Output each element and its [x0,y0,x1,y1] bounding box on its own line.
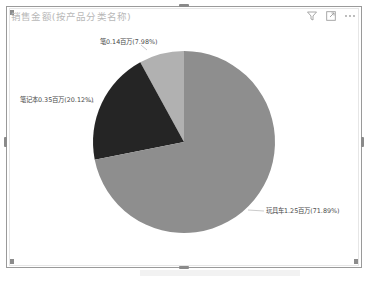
pie-chart: 笔0.14百万(7.98%)笔记本0.35百万(20.12%)玩具车1.25百万… [0,0,368,282]
leader-line [248,210,264,211]
data-label: 笔记本0.35百万(20.12%) [20,95,94,104]
background-shadow [140,270,300,276]
data-label: 笔0.14百万(7.98%) [100,37,158,46]
data-label: 玩具车1.25百万(71.89%) [266,206,340,215]
pie-slices [93,51,275,233]
